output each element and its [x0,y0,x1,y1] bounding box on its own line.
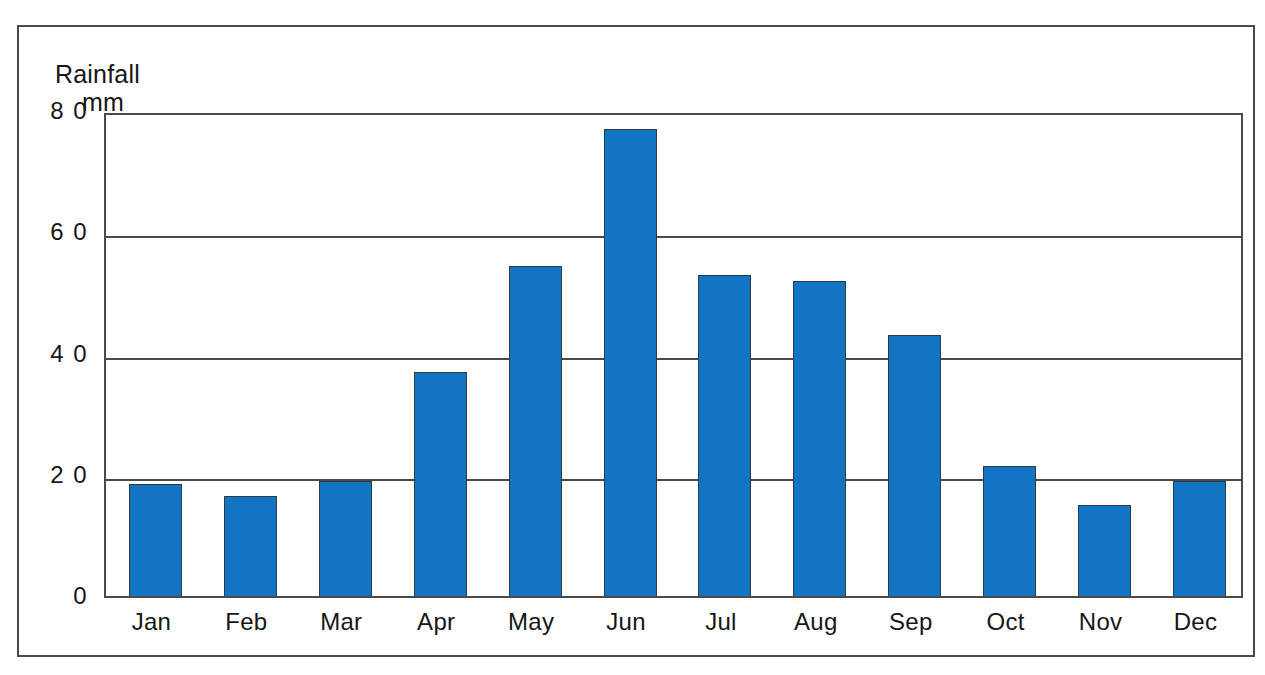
x-tick-label-mar: Mar [294,608,389,636]
gridline-20 [106,479,1241,481]
bar-apr [414,372,467,596]
x-axis-tick-labels: JanFebMarAprMayJunJulAugSepOctNovDec [104,608,1243,648]
axis-title-line-2: mm [55,88,151,116]
x-tick-label-oct: Oct [958,608,1053,636]
x-tick-label-feb: Feb [199,608,294,636]
bar-nov [1078,505,1131,596]
plot-area [104,113,1243,598]
plot-inner [106,115,1241,596]
x-tick-label-sep: Sep [863,608,958,636]
bar-may [509,266,562,596]
x-tick-label-dec: Dec [1148,608,1243,636]
x-tick-label-may: May [484,608,579,636]
bar-dec [1173,481,1226,596]
x-tick-label-nov: Nov [1053,608,1148,636]
x-tick-label-jan: Jan [104,608,199,636]
bar-jan [129,484,182,596]
x-tick-label-aug: Aug [768,608,863,636]
bar-oct [983,466,1036,596]
bar-aug [793,281,846,596]
bar-sep [888,335,941,596]
bar-feb [224,496,277,596]
x-tick-label-apr: Apr [389,608,484,636]
bar-mar [319,481,372,596]
bar-jun [604,129,657,596]
gridline-60 [106,236,1241,238]
x-tick-label-jul: Jul [674,608,769,636]
gridline-40 [106,358,1241,360]
axis-title-line-1: Rainfall [55,60,151,88]
bar-jul [698,275,751,596]
axis-title: Rainfall mm [55,60,151,116]
x-tick-label-jun: Jun [579,608,674,636]
